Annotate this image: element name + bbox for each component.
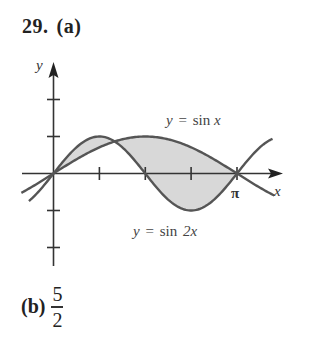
x-axis-label: x	[273, 183, 281, 199]
part-b-label: (b)	[21, 295, 45, 318]
y-axis-label: y	[34, 57, 43, 73]
label-sin-x: y = sin x	[164, 112, 221, 128]
part-b-answer: (b) 5 2	[21, 284, 63, 330]
fraction: 5 2	[51, 284, 63, 330]
x-tick-label-pi: π	[231, 185, 240, 201]
fraction-numerator: 5	[52, 284, 62, 304]
label-sin-2x: y = sin 2x	[131, 223, 197, 239]
fraction-denominator: 2	[52, 310, 62, 330]
fraction-bar	[51, 306, 63, 308]
